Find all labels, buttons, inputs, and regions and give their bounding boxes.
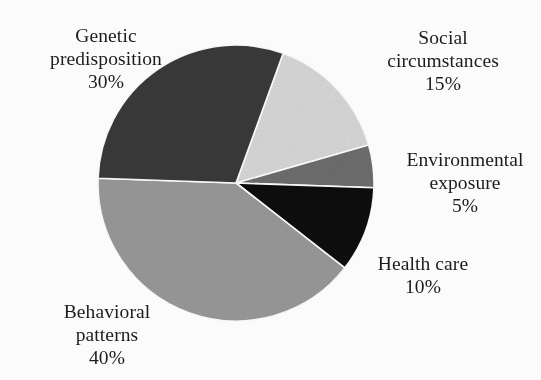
pie-label-percent: 15% xyxy=(355,72,531,95)
pie-label-line-1: Behavioral xyxy=(14,300,200,323)
pie-label-line-2: predisposition xyxy=(8,47,204,70)
pie-label-line-2: circumstances xyxy=(355,49,531,72)
pie-label-percent: 40% xyxy=(14,346,200,369)
pie-label-health-care: Health care 10% xyxy=(348,252,498,298)
pie-label-percent: 5% xyxy=(392,194,538,217)
pie-chart-figure: Social circumstances 15%Environmental ex… xyxy=(0,0,541,380)
pie-label-percent: 30% xyxy=(8,70,204,93)
pie-label-environmental-exposure: Environmental exposure 5% xyxy=(392,148,538,217)
pie-label-line-1: Genetic xyxy=(8,24,204,47)
pie-label-percent: 10% xyxy=(348,275,498,298)
pie-label-genetic-predisposition: Genetic predisposition 30% xyxy=(8,24,204,93)
pie-label-line-1: Social xyxy=(355,26,531,49)
pie-label-social-circumstances: Social circumstances 15% xyxy=(355,26,531,95)
pie-label-line-2: exposure xyxy=(392,171,538,194)
pie-label-line-2: patterns xyxy=(14,323,200,346)
pie-label-behavioral-patterns: Behavioral patterns 40% xyxy=(14,300,200,369)
pie-label-line-1: Environmental xyxy=(392,148,538,171)
pie-label-line-1: Health care xyxy=(348,252,498,275)
